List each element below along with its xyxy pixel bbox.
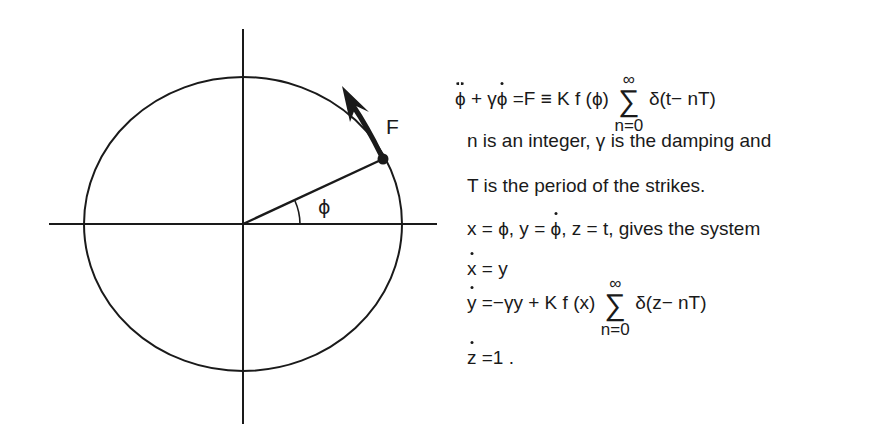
kicked-rotor-diagram: F ϕ xyxy=(0,0,440,434)
sum-lower-limit: n=0 xyxy=(601,321,630,338)
sum-upper-limit: ∞ xyxy=(609,275,621,292)
system-eq-x: x = y xyxy=(467,259,508,278)
phi-dot: ϕ xyxy=(497,89,508,108)
force-arrow-icon xyxy=(342,86,381,155)
delta-term: δ(z− nT) xyxy=(635,292,706,313)
force-definition: =F ≡ K f (ϕ) xyxy=(513,88,609,109)
substitution-part2: , z = t, gives the system xyxy=(561,218,760,239)
system-eq-z: z =1 . xyxy=(467,348,514,367)
radius-line xyxy=(243,159,383,224)
phi-dot: ϕ xyxy=(551,219,562,238)
z-dot-rhs: =1 . xyxy=(477,347,515,368)
z-dot: z xyxy=(467,348,477,367)
y-dot-rhs: =−γy + K f (x) xyxy=(477,292,596,313)
variable-substitution: x = ϕ, y = ϕ, z = t, gives the system xyxy=(467,219,760,238)
summation: ∑ ∞ n=0 xyxy=(605,290,626,320)
delta-term: δ(t− nT) xyxy=(649,88,716,109)
phi-double-dot: ϕ xyxy=(455,89,466,108)
y-dot: y xyxy=(467,293,477,312)
substitution-part1: x = ϕ, y = xyxy=(467,218,551,239)
plus-sign: + xyxy=(471,88,482,109)
equation-of-motion: ϕ + γϕ =F ≡ K f (ϕ) ∑ ∞ n=0 δ(t− nT) xyxy=(455,86,716,116)
description-line-period: T is the period of the strikes. xyxy=(467,176,705,195)
angle-label: ϕ xyxy=(318,196,331,218)
force-label: F xyxy=(386,115,399,138)
x-dot-rhs: = y xyxy=(477,258,508,279)
sum-upper-limit: ∞ xyxy=(623,71,635,88)
x-dot: x xyxy=(467,259,477,278)
angle-arc xyxy=(295,201,300,224)
description-line-integer: n is an integer, γ is the damping and xyxy=(467,131,771,150)
summation: ∑ ∞ n=0 xyxy=(618,86,639,116)
gamma-symbol: γ xyxy=(487,88,497,109)
system-eq-y: y =−γy + K f (x) ∑ ∞ n=0 δ(z− nT) xyxy=(467,290,707,320)
